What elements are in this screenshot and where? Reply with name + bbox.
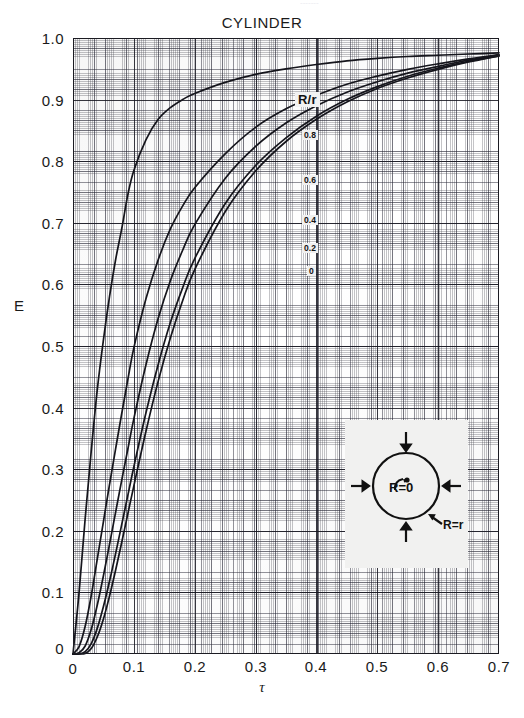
inset-svg: R=0 R=r bbox=[345, 420, 468, 568]
arrow-top-head-icon bbox=[401, 445, 410, 451]
legend-title: R/r bbox=[295, 92, 320, 107]
arrow-left-head-icon bbox=[363, 481, 369, 490]
curve-label-0-8: 0.8 bbox=[302, 130, 318, 140]
y-tick-0-2: 0.2 bbox=[16, 523, 64, 540]
x-tick-0-5: 0.5 bbox=[354, 658, 400, 675]
y-tick-0-9: 0.9 bbox=[16, 92, 64, 109]
x-tick-0-4: 0.4 bbox=[293, 658, 339, 675]
curve-label-0-6: 0.6 bbox=[302, 175, 318, 185]
curve-label-0-2: 0.2 bbox=[302, 243, 318, 253]
x-tick-0-7: 0.7 bbox=[476, 658, 522, 675]
arrow-right-head-icon bbox=[443, 481, 449, 490]
x-tick-0-2: 0.2 bbox=[172, 658, 218, 675]
x-tick-0-1: 0.1 bbox=[111, 658, 157, 675]
y-axis-title: E bbox=[6, 297, 32, 314]
inset-edge-label: R=r bbox=[443, 518, 464, 532]
chart-page: ------- CYLINDER R/r 0.8 0.6 0.4 0.2 0 bbox=[0, 0, 524, 718]
cut-off-header-text: ------- bbox=[300, 0, 500, 8]
curve-label-0: 0 bbox=[307, 266, 316, 276]
arrow-bottom-head-icon bbox=[401, 523, 410, 529]
plot-area: R/r 0.8 0.6 0.4 0.2 0 bbox=[73, 38, 499, 654]
x-tick-0-3: 0.3 bbox=[233, 658, 279, 675]
y-tick-0-4: 0.4 bbox=[16, 400, 64, 417]
inset-center-label: R=0 bbox=[389, 480, 413, 495]
x-axis-title: τ bbox=[0, 679, 524, 696]
page-title: CYLINDER bbox=[0, 14, 524, 31]
x-tick-0: 0 bbox=[50, 660, 96, 677]
y-tick-0-1: 0.1 bbox=[16, 584, 64, 601]
y-tick-0-3: 0.3 bbox=[16, 461, 64, 478]
y-tick-1-0: 1.0 bbox=[16, 30, 64, 47]
y-tick-0-5: 0.5 bbox=[16, 338, 64, 355]
x-tick-0-6: 0.6 bbox=[415, 658, 461, 675]
y-tick-0-6: 0.6 bbox=[16, 276, 64, 293]
curve-label-0-4: 0.4 bbox=[302, 215, 318, 225]
y-tick-0-8: 0.8 bbox=[16, 153, 64, 170]
inset-diagram: R=0 R=r bbox=[345, 420, 468, 568]
y-tick-0: 0 bbox=[16, 640, 64, 657]
y-tick-0-7: 0.7 bbox=[16, 215, 64, 232]
